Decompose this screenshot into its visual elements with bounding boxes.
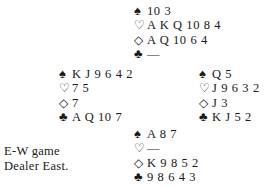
south-hand: ♠A 8 7 ♡— ◇K 9 8 5 2 ♣9 8 6 4 3 bbox=[134, 127, 199, 185]
south-diamonds: ◇K 9 8 5 2 bbox=[134, 156, 199, 170]
club-icon: ♣ bbox=[199, 110, 212, 124]
west-diamonds-cards: 7 bbox=[72, 96, 79, 110]
south-hearts: ♡— bbox=[134, 141, 199, 155]
vulnerability-text: E-W game bbox=[4, 144, 69, 159]
club-icon: ♣ bbox=[134, 170, 147, 184]
deal-notes: E-W game Dealer East. bbox=[4, 144, 69, 173]
west-spades-cards: K J 9 6 4 2 bbox=[72, 67, 133, 81]
south-spades: ♠A 8 7 bbox=[134, 127, 199, 141]
north-hand: ♠10 3 ♡A K Q 10 8 4 ◇A Q 10 6 4 ♣— bbox=[134, 4, 221, 62]
east-hand: ♠Q 5 ♡J 9 6 3 2 ◇J 3 ♣K J 5 2 bbox=[199, 67, 260, 125]
north-clubs: ♣— bbox=[134, 47, 221, 61]
spade-icon: ♠ bbox=[134, 4, 147, 18]
diamond-icon: ◇ bbox=[134, 156, 147, 170]
east-diamonds: ◇J 3 bbox=[199, 96, 260, 110]
north-diamonds-cards: A Q 10 6 4 bbox=[147, 33, 208, 47]
west-hand: ♠K J 9 6 4 2 ♡7 5 ◇7 ♣A Q 10 7 bbox=[59, 67, 133, 125]
west-clubs-cards: A Q 10 7 bbox=[72, 110, 122, 124]
north-diamonds: ◇A Q 10 6 4 bbox=[134, 33, 221, 47]
heart-icon: ♡ bbox=[59, 81, 72, 95]
diamond-icon: ◇ bbox=[134, 33, 147, 47]
heart-icon: ♡ bbox=[134, 18, 147, 32]
west-spades: ♠K J 9 6 4 2 bbox=[59, 67, 133, 81]
north-spades: ♠10 3 bbox=[134, 4, 221, 18]
north-hearts-cards: A K Q 10 8 4 bbox=[147, 18, 221, 32]
spade-icon: ♠ bbox=[59, 67, 72, 81]
south-diamonds-cards: K 9 8 5 2 bbox=[147, 156, 199, 170]
east-spades-cards: Q 5 bbox=[212, 67, 232, 81]
dealer-text: Dealer East. bbox=[4, 159, 69, 174]
east-hearts: ♡J 9 6 3 2 bbox=[199, 81, 260, 95]
south-hearts-cards: — bbox=[147, 141, 160, 155]
east-clubs: ♣K J 5 2 bbox=[199, 110, 260, 124]
west-hearts: ♡7 5 bbox=[59, 81, 133, 95]
east-diamonds-cards: J 3 bbox=[212, 96, 228, 110]
south-clubs: ♣9 8 6 4 3 bbox=[134, 170, 199, 184]
heart-icon: ♡ bbox=[199, 81, 212, 95]
north-hearts: ♡A K Q 10 8 4 bbox=[134, 18, 221, 32]
diamond-icon: ◇ bbox=[199, 96, 212, 110]
north-clubs-cards: — bbox=[147, 47, 160, 61]
spade-icon: ♠ bbox=[134, 127, 147, 141]
club-icon: ♣ bbox=[59, 110, 72, 124]
north-spades-cards: 10 3 bbox=[147, 4, 171, 18]
west-diamonds: ◇7 bbox=[59, 96, 133, 110]
spade-icon: ♠ bbox=[199, 67, 212, 81]
east-spades: ♠Q 5 bbox=[199, 67, 260, 81]
heart-icon: ♡ bbox=[134, 141, 147, 155]
west-hearts-cards: 7 5 bbox=[72, 81, 89, 95]
west-clubs: ♣A Q 10 7 bbox=[59, 110, 133, 124]
south-spades-cards: A 8 7 bbox=[147, 127, 177, 141]
east-clubs-cards: K J 5 2 bbox=[212, 110, 252, 124]
club-icon: ♣ bbox=[134, 47, 147, 61]
diamond-icon: ◇ bbox=[59, 96, 72, 110]
south-clubs-cards: 9 8 6 4 3 bbox=[147, 170, 196, 184]
east-hearts-cards: J 9 6 3 2 bbox=[212, 81, 260, 95]
